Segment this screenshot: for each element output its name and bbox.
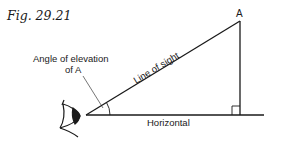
angle-label-line1: Angle of elevation xyxy=(33,53,109,64)
horizontal-label: Horizontal xyxy=(147,117,190,128)
point-a-label: A xyxy=(236,8,243,19)
line-of-sight-label: Line of sight xyxy=(131,49,181,85)
right-angle-marker xyxy=(232,106,240,115)
angle-label-line2: of A xyxy=(65,64,82,75)
eye-icon xyxy=(60,100,80,137)
angle-leader-line xyxy=(83,76,103,108)
angle-arc xyxy=(107,103,111,116)
elevation-diagram: A Angle of elevation of A Line of sight … xyxy=(0,0,283,149)
